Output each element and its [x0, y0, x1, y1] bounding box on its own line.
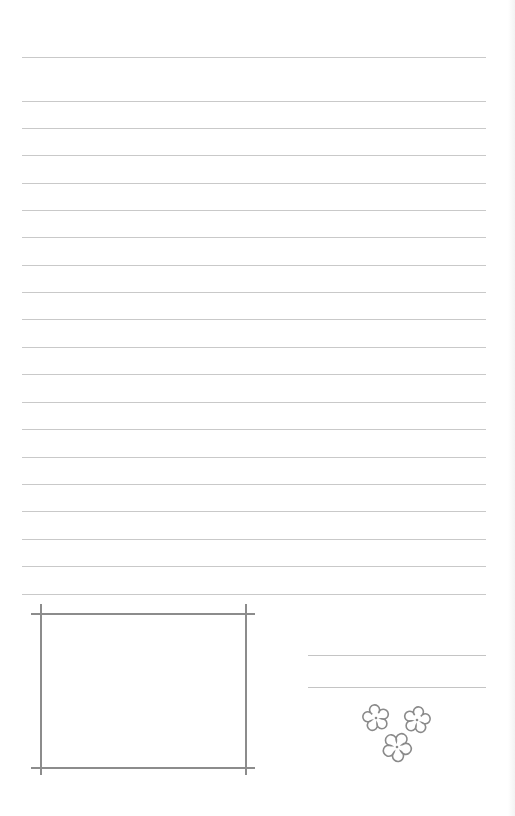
flower-icon-bottom — [383, 734, 411, 762]
flower-icon-left — [363, 705, 388, 731]
flower-icon-right — [405, 707, 430, 733]
flower-decoration — [0, 0, 515, 816]
